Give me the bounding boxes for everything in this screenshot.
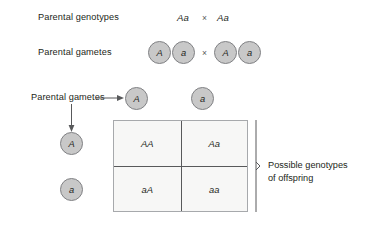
gamete-circle-parent1-a-dominant: A <box>148 41 171 64</box>
parental-gametes-label-axes: Parental gametes <box>31 92 105 102</box>
punnett-square-grid: AA Aa aA aa <box>113 120 248 212</box>
gamete-circle-parent2-a-dominant: A <box>214 41 237 64</box>
punnett-cell-aa-dominant: AA <box>114 121 181 166</box>
possible-genotypes-line1: Possible genotypes <box>268 159 348 172</box>
genotype-cross-symbol: × <box>202 13 207 23</box>
parent1-genotype: Aa <box>177 12 189 23</box>
parent2-genotype: Aa <box>217 12 229 23</box>
gamete-circle-row-a-dominant: A <box>60 132 83 155</box>
punnett-square-diagram: Parental genotypes Aa × Aa Parental game… <box>0 0 385 233</box>
parental-gametes-label-top: Parental gametes <box>38 47 112 57</box>
gamete-circle-column-a-dominant: A <box>125 87 148 110</box>
gamete-circle-parent1-a-recessive: a <box>172 41 195 64</box>
gamete-circle-parent2-a-recessive: a <box>238 41 261 64</box>
punnett-cell-aa-recessive: aa <box>181 166 248 211</box>
possible-genotypes-label: Possible genotypes of offspring <box>268 159 348 184</box>
punnett-cell-aa-hetero-2: aA <box>114 166 181 211</box>
gamete-circle-row-a-recessive: a <box>60 178 83 201</box>
parental-genotypes-label: Parental genotypes <box>38 12 119 22</box>
possible-genotypes-line2: of offspring <box>268 172 348 185</box>
punnett-cell-aa-hetero-1: Aa <box>181 121 248 166</box>
gamete-circle-column-a-recessive: a <box>191 87 214 110</box>
gamete-cross-symbol: × <box>202 48 207 58</box>
